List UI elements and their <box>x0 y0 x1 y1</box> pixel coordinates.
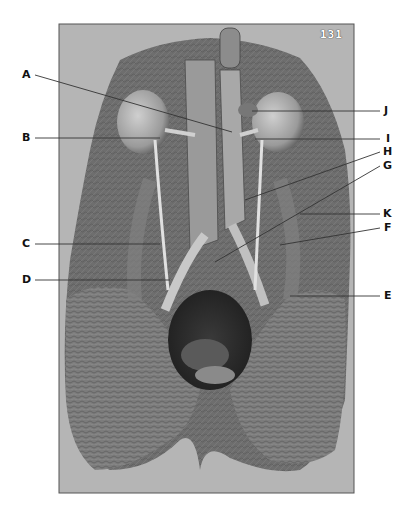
label-f: F <box>384 222 392 233</box>
label-g: G <box>383 160 392 171</box>
label-k: K <box>383 208 392 219</box>
anatomy-figure: 131 A B C D J I H G K F E <box>0 0 412 521</box>
label-h: H <box>383 146 392 157</box>
right-kidney <box>252 92 304 152</box>
rectum-stump <box>195 366 235 384</box>
left-kidney <box>117 90 169 154</box>
bladder <box>181 339 229 371</box>
aorta-stump <box>220 28 240 68</box>
label-a: A <box>22 69 31 80</box>
label-d: D <box>22 274 31 285</box>
label-j: J <box>384 105 388 116</box>
label-c: C <box>22 238 30 249</box>
page-number: 131 <box>320 28 343 41</box>
label-i: I <box>386 133 390 144</box>
adrenal-right <box>238 103 258 117</box>
specimen-photo <box>0 0 412 521</box>
vena-cava <box>185 60 218 250</box>
label-e: E <box>384 290 392 301</box>
label-b: B <box>22 132 30 143</box>
